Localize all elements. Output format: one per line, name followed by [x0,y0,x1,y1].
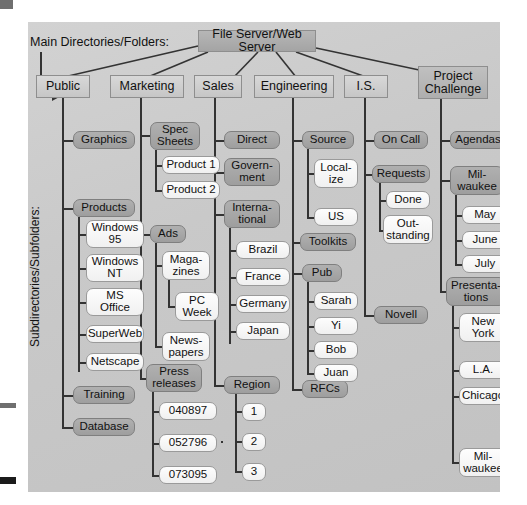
node-june[interactable]: June [462,231,500,249]
node-windows-95[interactable]: Windows95 [86,220,144,248]
ads-spine [155,243,157,348]
node-public[interactable]: Public [36,75,90,98]
node-sales[interactable]: Sales [194,75,242,98]
international-spine [229,228,231,344]
node-label: MSOffice [100,290,130,313]
node-file-server[interactable]: File Server/Web Server [198,30,316,52]
node-milwaukee[interactable]: Mil-waukee [450,166,500,195]
node-done[interactable]: Done [386,191,430,209]
node-us[interactable]: US [314,208,358,226]
node-label: Local-ize [320,162,351,185]
source-spine [307,149,309,219]
node-government[interactable]: Govern-ment [224,158,280,186]
node-project-challenge[interactable]: ProjectChallenge [418,66,488,99]
node-label: Done [394,194,422,206]
node-label: 073095 [169,469,207,481]
node-ads[interactable]: Ads [150,225,186,243]
node-label: Mil-waukee [457,169,497,192]
node-label: Graphics [81,134,127,146]
node-training[interactable]: Training [73,386,135,404]
node-region[interactable]: Region [224,376,280,394]
node-label: 1 [251,406,257,418]
node-chicago[interactable]: Chicago [459,387,500,405]
node-pc-week[interactable]: PCWeek [175,292,219,321]
node-localize[interactable]: Local-ize [314,159,358,188]
node-agendas[interactable]: Agendas [450,131,500,149]
stray-dot-artifact [221,441,223,443]
node-graphics[interactable]: Graphics [73,131,135,149]
node-region-2[interactable]: 2 [242,433,266,451]
node-label: Out-standing [386,218,429,241]
project-spine [440,99,442,293]
node-new-york[interactable]: NewYork [459,313,500,342]
node-milwaukee-2[interactable]: Mil-waukee [459,448,500,477]
node-may[interactable]: May [462,206,500,224]
node-products[interactable]: Products [73,199,135,217]
node-brazil[interactable]: Brazil [236,241,290,259]
node-ms-office[interactable]: MSOffice [86,288,144,316]
node-040897[interactable]: 040897 [159,402,217,420]
node-on-call[interactable]: On Call [374,131,428,149]
node-source[interactable]: Source [302,131,354,149]
node-international[interactable]: Interna-tional [224,200,280,228]
directory-structure-diagram: Main Directories/Folders: Subdirectories… [28,22,500,492]
node-france[interactable]: France [236,268,290,286]
node-database[interactable]: Database [73,418,135,436]
node-newspapers[interactable]: News-papers [162,332,210,361]
node-yi[interactable]: Yi [314,317,358,335]
node-label: SpecSheets [157,124,193,147]
node-label: Interna-tional [232,202,272,225]
node-requests[interactable]: Requests [372,165,430,183]
node-product-2[interactable]: Product 2 [162,181,220,199]
node-label: July [475,258,495,270]
node-label: Chicago [462,390,500,402]
node-073095[interactable]: 073095 [159,466,217,484]
node-novell[interactable]: Novell [374,306,428,324]
node-magazines[interactable]: Maga-zines [162,251,210,280]
node-press-releases[interactable]: Pressreleases [146,364,202,392]
node-label: Database [79,421,128,433]
node-windows-nt[interactable]: WindowsNT [86,254,144,282]
products-spine [78,217,80,372]
node-presentations[interactable]: Presenta-tions [446,277,500,306]
main-directories-label: Main Directories/Folders: [30,35,169,49]
spec-sheets-spine [155,150,157,192]
node-label: I.S. [357,80,376,93]
node-region-1[interactable]: 1 [242,403,266,421]
node-july[interactable]: July [462,255,500,273]
node-pub[interactable]: Pub [302,264,342,282]
node-netscape[interactable]: Netscape [86,353,144,371]
crop-mark-bottom-left [0,477,16,484]
node-toolkits[interactable]: Toolkits [300,233,356,251]
node-label: Novell [385,309,417,321]
node-sarah[interactable]: Sarah [314,292,358,310]
node-label: Agendas [455,134,500,146]
node-label: Source [310,134,346,146]
node-label: Region [234,379,270,391]
node-label: France [245,271,281,283]
node-label: Brazil [249,244,278,256]
node-label: Govern-ment [231,160,273,183]
node-spec-sheets[interactable]: SpecSheets [150,122,200,150]
node-juan[interactable]: Juan [314,364,358,382]
node-japan[interactable]: Japan [236,322,290,340]
node-bob[interactable]: Bob [314,341,358,359]
node-label: Marketing [120,80,175,93]
node-label: Ads [158,228,178,240]
node-label: Yi [331,320,341,332]
presentations-spine [452,306,454,463]
node-is[interactable]: I.S. [344,75,388,98]
node-marketing[interactable]: Marketing [110,75,184,98]
node-direct[interactable]: Direct [224,131,280,149]
node-germany[interactable]: Germany [236,295,290,313]
node-region-3[interactable]: 3 [242,463,266,481]
node-label: 040897 [169,405,207,417]
node-label: Maga-zines [170,254,203,277]
node-product-1[interactable]: Product 1 [162,156,220,174]
node-superweb[interactable]: SuperWeb [86,325,144,343]
node-engineering[interactable]: Engineering [254,75,334,98]
node-la[interactable]: L.A. [459,361,500,379]
node-outstanding[interactable]: Out-standing [383,215,433,244]
node-052796[interactable]: 052796 [159,434,217,452]
node-rfcs[interactable]: RFCs [302,380,348,398]
